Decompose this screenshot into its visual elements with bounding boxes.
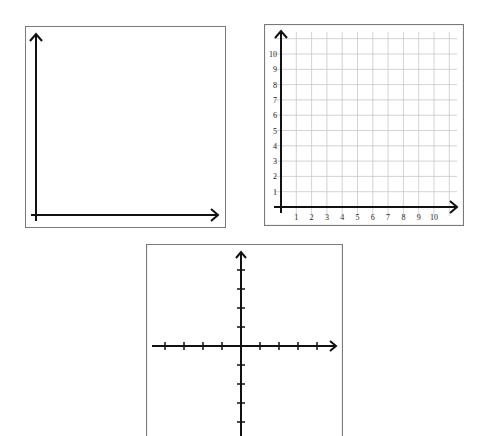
x-tick-label: 6 [371,213,375,222]
x-tick-label: 4 [340,213,344,222]
y-tick-label: 8 [273,81,277,90]
four-quadrant-axes [146,244,343,436]
x-tick-label: 3 [325,213,329,222]
y-tick-label: 10 [269,50,277,59]
four-quadrant-panel [146,244,343,436]
x-tick-label: 10 [430,213,438,222]
blank-quadrant-axes [25,26,226,228]
x-tick-label: 7 [386,213,390,222]
y-tick-label: 4 [273,142,277,151]
x-tick-label: 1 [294,213,298,222]
y-tick-label: 2 [273,172,277,181]
y-tick-label: 5 [273,127,277,136]
blank-quadrant-panel [25,26,226,228]
x-tick-label: 8 [401,213,405,222]
grid-quadrant-panel: 12345678910 12345678910 [264,24,464,226]
y-tick-label: 9 [273,65,277,74]
x-tick-label: 2 [310,213,314,222]
y-tick-label: 6 [273,111,277,120]
y-tick-label: 7 [273,96,277,105]
x-tick-label: 9 [417,213,421,222]
x-tick-label: 5 [356,213,360,222]
y-tick-label: 3 [273,157,277,166]
y-tick-label: 1 [273,188,277,197]
grid-quadrant-axes: 12345678910 12345678910 [264,24,464,226]
